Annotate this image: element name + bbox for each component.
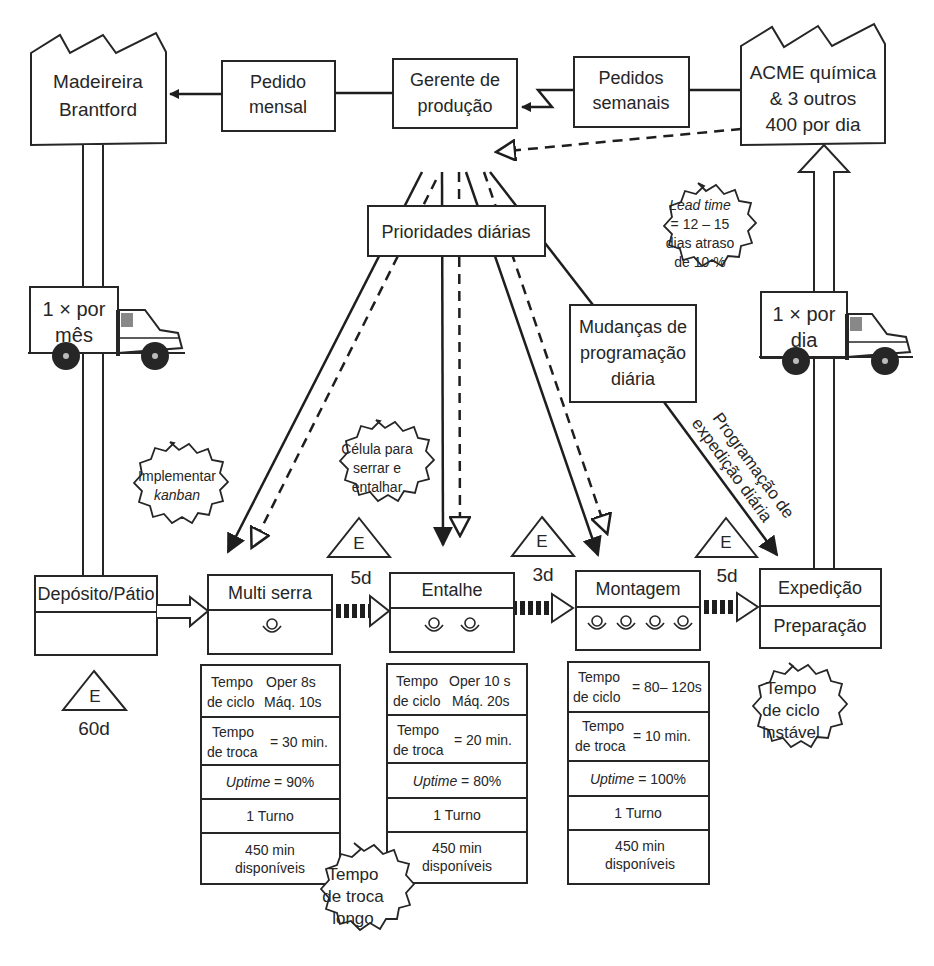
svg-text:= 20 min.: = 20 min. bbox=[454, 732, 512, 748]
daily-priorities-label: Prioridades diárias bbox=[381, 222, 530, 242]
data-box-montagem: Tempo de ciclo = 80– 120s Tempo de troca… bbox=[568, 662, 709, 884]
process-name: Montagem bbox=[595, 579, 680, 599]
inbound-truck-icon: 1 × por mês bbox=[28, 287, 185, 370]
svg-text:serrar e: serrar e bbox=[353, 460, 401, 476]
forecast-dashed-arrow bbox=[497, 129, 741, 152]
supplier-name-line1: Madeireira bbox=[53, 71, 143, 92]
svg-text:= 30 min.: = 30 min. bbox=[270, 734, 328, 750]
process-deposito: Depósito/Pátio bbox=[35, 576, 157, 655]
svg-text:de troca: de troca bbox=[393, 742, 444, 758]
svg-text:Oper 10 s: Oper 10 s bbox=[449, 673, 510, 689]
svg-text:Tempo: Tempo bbox=[582, 718, 624, 734]
svg-text:Uptime = 90%: Uptime = 90% bbox=[226, 774, 314, 790]
customer-name-line2: & 3 outros bbox=[770, 88, 857, 109]
production-manager-box: Gerente de produção bbox=[393, 59, 517, 128]
process-expedicao: Expedição Preparação bbox=[760, 569, 881, 648]
svg-text:1 Turno: 1 Turno bbox=[614, 805, 662, 821]
svg-text:longo: longo bbox=[332, 909, 374, 928]
svg-text:Tempo: Tempo bbox=[212, 724, 254, 740]
svg-text:entalhar: entalhar bbox=[352, 479, 403, 495]
inventory-triangle-2: E 5d bbox=[328, 518, 390, 588]
inventory-days: 60d bbox=[78, 718, 110, 739]
svg-text:Tempo: Tempo bbox=[578, 669, 620, 685]
svg-text:de ciclo: de ciclo bbox=[573, 689, 621, 705]
svg-text:E: E bbox=[720, 533, 731, 552]
svg-text:de troca: de troca bbox=[575, 738, 626, 754]
customer-factory: ACME química & 3 outros 400 por dia bbox=[741, 24, 885, 145]
svg-text:de troca: de troca bbox=[207, 744, 258, 760]
svg-text:kanban: kanban bbox=[154, 487, 200, 503]
process-name: Entalhe bbox=[421, 580, 482, 600]
kaizen-burst-lead-time: Lead time = 12 – 15 dias atraso de 10 % bbox=[664, 183, 756, 270]
svg-text:450 min: 450 min bbox=[432, 840, 482, 856]
electronic-info-arrow bbox=[522, 90, 574, 107]
outbound-frequency-line1: 1 × por bbox=[773, 303, 836, 325]
svg-text:Tempo: Tempo bbox=[211, 674, 253, 690]
svg-text:Máq. 20s: Máq. 20s bbox=[452, 693, 510, 709]
weekly-orders-line1: Pedidos bbox=[598, 68, 663, 88]
data-box-multi-serra: Tempo de ciclo Oper 8s Máq. 10s Tempo de… bbox=[201, 665, 340, 884]
svg-text:disponíveis: disponíveis bbox=[235, 860, 305, 876]
svg-text:= 80– 120s: = 80– 120s bbox=[632, 679, 702, 695]
push-arrow-3 bbox=[700, 593, 758, 621]
process-multi-serra: Multi serra bbox=[208, 575, 332, 654]
inventory-days: 3d bbox=[532, 564, 553, 585]
svg-text:de ciclo: de ciclo bbox=[393, 693, 441, 709]
schedule-changes-line1: Mudanças de bbox=[579, 317, 687, 337]
svg-text:1 Turno: 1 Turno bbox=[433, 807, 481, 823]
svg-text:instável: instável bbox=[762, 723, 820, 742]
data-box-entalhe: Tempo de ciclo Oper 10 s Máq. 20s Tempo … bbox=[387, 664, 527, 883]
svg-text:Tempo: Tempo bbox=[396, 673, 438, 689]
svg-text:Tempo: Tempo bbox=[765, 679, 816, 698]
push-arrow-1 bbox=[333, 596, 389, 626]
inventory-days: 5d bbox=[716, 565, 737, 586]
svg-text:disponíveis: disponíveis bbox=[605, 856, 675, 872]
process-entalhe: Entalhe bbox=[390, 573, 514, 652]
monthly-order-line2: mensal bbox=[249, 97, 307, 117]
weekly-orders-line2: semanais bbox=[592, 93, 669, 113]
svg-text:450 min: 450 min bbox=[615, 838, 665, 854]
monthly-order-line1: Pedido bbox=[250, 72, 306, 92]
inventory-triangle-3: E 3d bbox=[512, 517, 574, 585]
svg-text:Célula para: Célula para bbox=[341, 441, 413, 457]
svg-text:450 min: 450 min bbox=[245, 842, 295, 858]
schedule-changes-line2: programação bbox=[580, 343, 686, 363]
shipping-schedule-label: Programação de expedição diária bbox=[688, 403, 798, 534]
svg-text:Máq. 10s: Máq. 10s bbox=[264, 694, 322, 710]
svg-text:Lead time: Lead time bbox=[669, 197, 731, 213]
svg-text:Uptime = 100%: Uptime = 100% bbox=[590, 771, 686, 787]
inbound-frequency-line1: 1 × por bbox=[43, 298, 106, 320]
svg-text:de ciclo: de ciclo bbox=[207, 694, 255, 710]
process-name: Depósito/Pátio bbox=[37, 584, 154, 604]
svg-text:Tempo: Tempo bbox=[397, 722, 439, 738]
svg-text:= 10 min.: = 10 min. bbox=[633, 728, 691, 744]
svg-text:E: E bbox=[353, 534, 364, 553]
push-arrow-2 bbox=[515, 594, 573, 622]
process-name: Multi serra bbox=[228, 583, 313, 603]
kaizen-burst-kanban: Implementar kanban bbox=[134, 442, 228, 523]
svg-text:E: E bbox=[536, 532, 547, 551]
process-montagem: Montagem bbox=[576, 571, 700, 650]
flow-arrow-deposit bbox=[157, 597, 208, 626]
outbound-frequency-line2: dia bbox=[791, 329, 819, 351]
daily-priorities-box: Prioridades diárias bbox=[368, 206, 545, 256]
production-manager-line1: Gerente de bbox=[410, 70, 500, 90]
svg-text:de troca: de troca bbox=[322, 887, 384, 906]
kaizen-burst-cycle: Tempo de ciclo instável bbox=[753, 663, 847, 747]
production-manager-line2: produção bbox=[417, 96, 492, 116]
svg-text:disponíveis: disponíveis bbox=[422, 858, 492, 874]
process-subname: Preparação bbox=[773, 616, 866, 636]
monthly-order-box: Pedido mensal bbox=[222, 61, 335, 131]
weekly-orders-box: Pedidos semanais bbox=[574, 57, 689, 127]
svg-text:= 12 – 15: = 12 – 15 bbox=[671, 216, 730, 232]
svg-text:de 10 %: de 10 % bbox=[674, 254, 725, 270]
svg-text:Oper 8s: Oper 8s bbox=[266, 674, 316, 690]
svg-text:de ciclo: de ciclo bbox=[762, 701, 820, 720]
customer-name-line3: 400 por dia bbox=[765, 114, 861, 135]
inbound-frequency-line2: mês bbox=[55, 324, 93, 346]
svg-text:1 Turno: 1 Turno bbox=[246, 808, 294, 824]
supplier-factory: Madeireira Brantford bbox=[31, 33, 166, 145]
svg-text:Uptime = 80%: Uptime = 80% bbox=[413, 773, 501, 789]
svg-text:Tempo: Tempo bbox=[327, 865, 378, 884]
process-name: Expedição bbox=[778, 578, 862, 598]
